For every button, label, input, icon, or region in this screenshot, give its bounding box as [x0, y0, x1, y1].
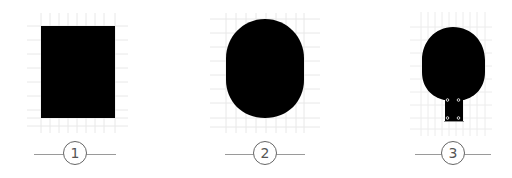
- pin-icon: [446, 99, 449, 102]
- paddle-shape: [422, 27, 485, 121]
- rectangle-shape: [41, 26, 115, 118]
- pin-icon: [457, 117, 460, 120]
- pin-icon: [457, 99, 460, 102]
- panel-2: 2: [170, 0, 340, 178]
- label-circle: 1: [63, 141, 87, 165]
- label-circle: 2: [253, 141, 277, 165]
- panel-1: 1: [0, 0, 170, 178]
- label-1: 1: [34, 141, 116, 169]
- oval-shape: [226, 19, 304, 118]
- panel-3: 3: [340, 0, 512, 178]
- label-2: 2: [225, 141, 305, 169]
- label-circle: 3: [441, 141, 465, 165]
- label-3: 3: [415, 141, 491, 169]
- pin-icon: [446, 117, 449, 120]
